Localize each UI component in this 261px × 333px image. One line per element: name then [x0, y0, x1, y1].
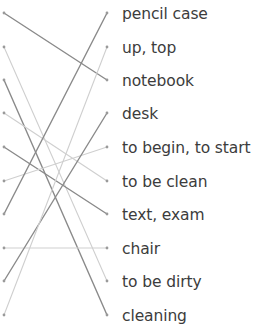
label-cleaning: cleaning — [122, 306, 187, 326]
right-dot — [106, 280, 109, 283]
connection-line — [4, 147, 107, 181]
left-dot — [3, 280, 6, 283]
right-dot — [106, 314, 109, 317]
right-dot — [106, 180, 109, 183]
label-pencil-case: pencil case — [122, 4, 208, 24]
left-dot — [3, 213, 6, 216]
right-dot — [106, 146, 109, 149]
right-dot — [106, 46, 109, 49]
label-to-begin: to begin, to start — [122, 138, 250, 158]
label-up-top: up, top — [122, 38, 176, 58]
label-desk: desk — [122, 104, 158, 124]
right-dot — [106, 112, 109, 115]
left-dots — [3, 12, 6, 317]
label-text-exam: text, exam — [122, 205, 204, 225]
label-notebook: notebook — [122, 71, 194, 91]
right-dot — [106, 12, 109, 15]
left-dot — [3, 146, 6, 149]
connection-lines — [4, 13, 107, 315]
label-to-be-dirty: to be dirty — [122, 272, 201, 292]
right-dot — [106, 79, 109, 82]
connection-line — [4, 113, 107, 281]
right-dot — [106, 247, 109, 250]
right-dots — [106, 12, 109, 317]
left-dot — [3, 112, 6, 115]
connection-line — [4, 13, 107, 80]
connection-line — [4, 113, 107, 181]
connection-line — [4, 13, 107, 214]
right-dot — [106, 213, 109, 216]
left-dot — [3, 247, 6, 250]
left-dot — [3, 180, 6, 183]
label-chair: chair — [122, 239, 160, 259]
connection-line — [4, 47, 107, 315]
left-dot — [3, 79, 6, 82]
left-dot — [3, 314, 6, 317]
left-dot — [3, 12, 6, 15]
left-dot — [3, 46, 6, 49]
label-to-be-clean: to be clean — [122, 172, 207, 192]
